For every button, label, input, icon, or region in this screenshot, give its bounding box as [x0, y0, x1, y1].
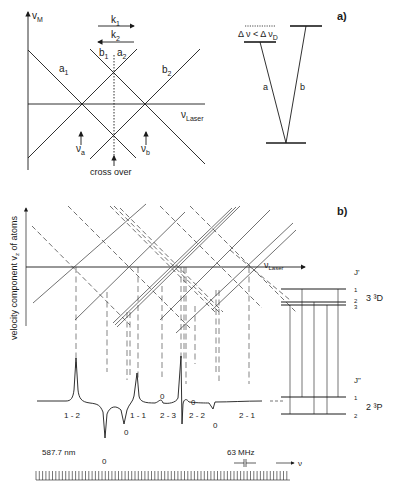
upper-j-label: J': [354, 268, 360, 277]
figure-canvas: vM νLaser k1 k2 a1 b1 a2 b2 νa νb cross …: [0, 0, 394, 489]
linewidth-condition: Δ ν < Δ νD: [238, 29, 278, 41]
panel-b-level-scheme: [281, 289, 346, 414]
b-vlaser-label: νLaser: [264, 260, 284, 271]
wavelength-label: 587.7 nm: [42, 448, 76, 457]
panel-a-level-scheme: [244, 26, 322, 143]
panel-a-label: a): [337, 10, 347, 22]
a1-label: a1: [59, 63, 69, 76]
line-a2: [28, 49, 137, 158]
crossover-0-c: 0: [191, 398, 196, 407]
frequency-marker-comb: [36, 471, 290, 480]
va-label: νa: [76, 143, 85, 156]
spectrum-labels: 1 - 2 1 - 1 2 - 3 2 - 2 2 - 1 0 0 0 0 0 …: [42, 392, 302, 468]
lower-j-1: 1: [354, 395, 358, 401]
upper-term-3D: 3 ³D: [366, 293, 384, 303]
panel-b-velocity-diagram: [26, 204, 305, 384]
crossover-label: cross over: [90, 167, 132, 177]
peak-1-2: 1 - 2: [64, 411, 81, 420]
line-b1: [90, 49, 205, 164]
b1-label: b1: [99, 47, 109, 60]
panel-a-labels: vM νLaser k1 k2 a1 b1 a2 b2 νa νb cross …: [32, 10, 204, 177]
transition-a: [260, 42, 286, 143]
peak-2-3: 2 - 3: [160, 411, 177, 420]
scale-markers: [234, 459, 294, 467]
vlaser-label: νLaser: [181, 109, 204, 122]
crossover-0-a: 0: [124, 428, 129, 437]
lower-term-3P: 2 ³P: [366, 402, 383, 412]
vm-label: vM: [32, 10, 43, 23]
transition-b-label: b: [300, 82, 305, 92]
vb-label: νb: [141, 143, 150, 156]
lower-j-label: J": [354, 376, 361, 385]
peak-2-1: 2 - 1: [239, 411, 256, 420]
crossover-0-d: 0: [213, 421, 218, 430]
a2-label: a2: [117, 47, 127, 60]
panel-b-label: b): [337, 205, 348, 217]
scale-63mhz: 63 MHz: [227, 448, 255, 457]
upper-j-3: 3: [354, 304, 358, 310]
peak-1-1: 1 - 1: [130, 411, 147, 420]
peak-2-2: 2 - 2: [189, 411, 206, 420]
saturation-spectrum-trace: [37, 356, 262, 438]
k1-label: k1: [111, 14, 120, 27]
freq-axis-label: ν: [298, 459, 302, 468]
crossover-0-b: 0: [160, 392, 165, 401]
upper-j-1: 1: [354, 287, 358, 293]
b2-label: b2: [162, 64, 172, 77]
crossover-0-e: 0: [102, 457, 107, 466]
transition-a-label: a: [263, 82, 268, 92]
lower-j-2: 2: [354, 413, 358, 419]
y-axis-label-vz: velocity component vz of atoms: [9, 215, 20, 340]
k2-label: k2: [111, 29, 120, 42]
